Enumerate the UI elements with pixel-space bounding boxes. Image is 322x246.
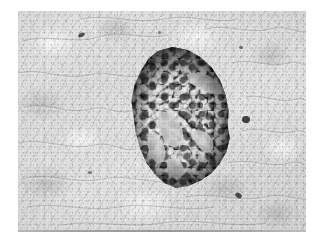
histology-micrograph-plate [18, 11, 306, 232]
acinar-boundary-highlight-10 [228, 163, 306, 167]
acinar-boundary-2 [24, 105, 130, 111]
micrograph-page [0, 0, 322, 246]
islet-of-langerhans [125, 47, 233, 192]
acinar-boundary-1 [18, 71, 142, 76]
speck-lower-left [88, 171, 92, 174]
acinar-boundary-11 [186, 195, 306, 199]
plate-bottom-edge-line [18, 230, 306, 232]
islet-body [125, 47, 233, 192]
acinar-boundary-highlight-7 [232, 63, 306, 67]
speck-upper-mid [158, 31, 161, 34]
islet-peripheral-shading [125, 47, 233, 192]
